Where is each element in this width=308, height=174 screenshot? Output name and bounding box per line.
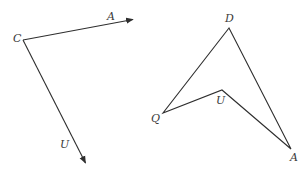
point-label-a: A xyxy=(106,10,115,23)
vector-diagram: C A U xyxy=(13,10,133,163)
geometry-figure: C A U D Q U A xyxy=(0,0,308,174)
vertex-label-q: Q xyxy=(151,112,160,125)
point-label-c: C xyxy=(13,32,22,45)
point-label-u: U xyxy=(60,138,70,151)
quadrilateral-dqua: D Q U A xyxy=(151,12,298,164)
vector-ca xyxy=(23,20,133,41)
vertex-label-d: D xyxy=(224,12,234,25)
vertex-label-u: U xyxy=(216,94,226,107)
vertex-label-a: A xyxy=(289,151,298,164)
vector-cu xyxy=(23,40,86,163)
quadrilateral-outline xyxy=(163,28,291,149)
